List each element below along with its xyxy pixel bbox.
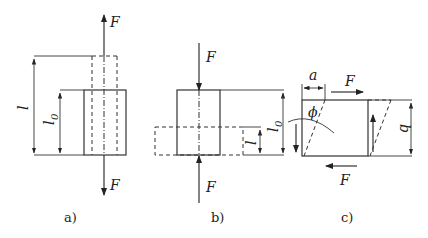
caption-b: b) [211,210,224,225]
angle-arc [288,119,334,133]
length-label-l: l [243,141,259,145]
svg-text:0: 0 [273,120,284,127]
svg-text:0: 0 [49,113,60,120]
length-label-l0: l 0 [265,120,284,132]
force-label-bottom: F [109,177,121,193]
force-label-bottom: F [205,179,217,195]
length-label-l0: l 0 [41,113,60,125]
original-bar [84,90,126,155]
panel-b-compression: F F l l 0 b) [155,43,284,225]
force-label-top: F [205,49,217,65]
svg-text:l: l [265,128,281,132]
angle-label-phi: ϕ [308,104,318,120]
panel-c-shear: a F F ϕ b c) [288,67,413,225]
force-label-bottom: F [339,172,351,188]
length-label-l: l [15,106,31,110]
force-label-top: F [344,73,356,89]
panel-a-tension: F F l l 0 a) [15,14,126,225]
displacement-label-a: a [309,67,317,83]
caption-a: a) [64,210,77,225]
deformation-diagram: F F l l 0 a) F F l l [0,0,428,238]
height-label-b: b [397,124,413,133]
svg-text:l: l [41,121,57,125]
caption-c: c) [341,210,353,225]
force-label-top: F [109,14,121,30]
